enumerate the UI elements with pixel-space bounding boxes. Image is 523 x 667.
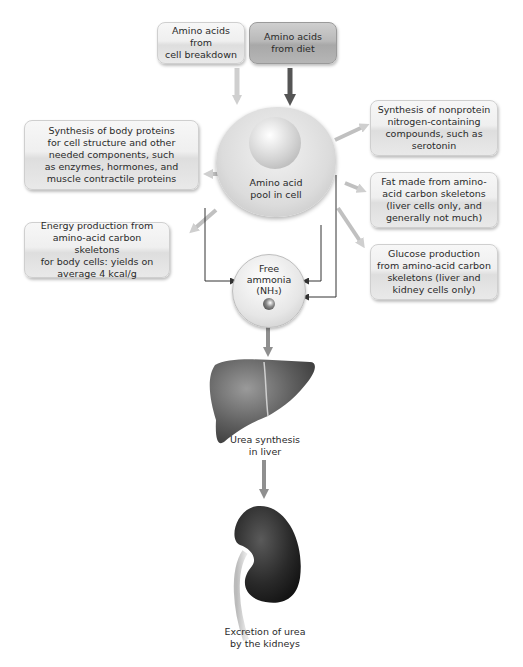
- liver-icon: [0, 0, 523, 667]
- label-urea-excretion-kidneys: Excretion of urea by the kidneys: [200, 626, 330, 650]
- label-urea-synthesis-liver: Urea synthesis in liver: [210, 434, 320, 458]
